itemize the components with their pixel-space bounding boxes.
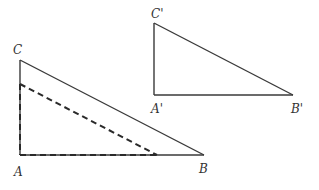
label-b-prime: B' (290, 102, 303, 116)
side-bc (20, 60, 204, 155)
triangle-a-prime-b-prime-c-prime (154, 23, 293, 95)
triangle-abc (20, 60, 204, 155)
label-a-prime: A' (150, 102, 163, 116)
label-c-prime: C' (151, 7, 163, 21)
label-c: C (13, 43, 22, 57)
label-b: B (198, 162, 208, 176)
label-a: A (13, 165, 23, 179)
side-b-prime-c-prime (154, 23, 293, 95)
geometry-diagram: C A B C' A' B' (0, 0, 319, 190)
